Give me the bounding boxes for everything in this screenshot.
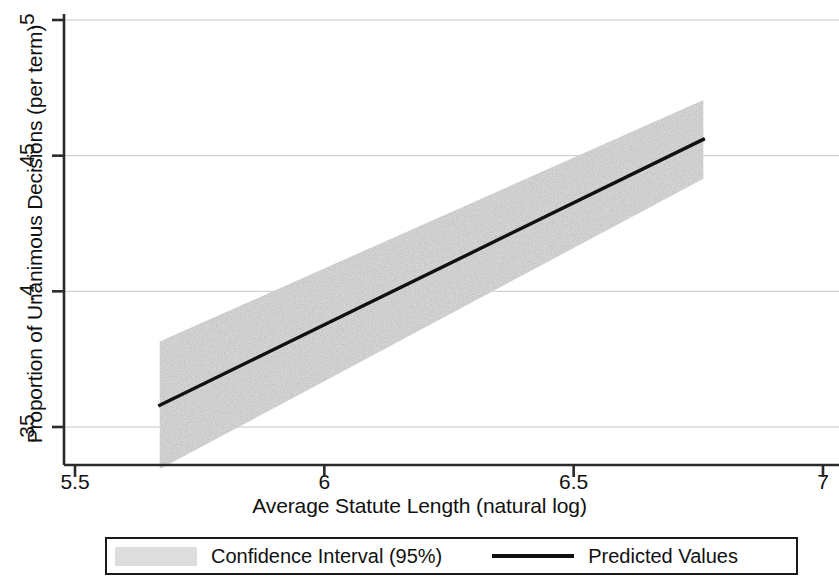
legend-predicted-line-marker [492,554,574,558]
legend-ci-swatch [115,547,197,566]
figure-canvas: Proportion of Unanimous Decisions (per t… [0,0,839,577]
x-axis-title: Average Statute Length (natural log) [0,494,839,518]
plot-area [0,0,839,577]
x-axis-ticks [75,465,823,477]
chart-legend: Confidence Interval (95%) Predicted Valu… [105,537,798,575]
legend-predicted-label: Predicted Values [588,545,738,568]
y-axis-ticks [52,20,64,427]
legend-ci-label: Confidence Interval (95%) [211,545,442,568]
predicted-values-line [160,139,704,405]
